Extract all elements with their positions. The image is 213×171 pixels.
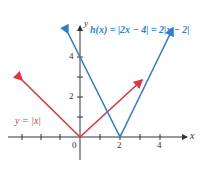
h-label: h(x) = |2x − 4| = 2|x − 2| [90,24,190,35]
tick-x-0: 0 [72,140,77,150]
tick-x-2: 2 [117,140,122,150]
y-axis [77,26,83,160]
y-axis-label: y [84,18,88,28]
tick-y-2: 2 [69,91,74,101]
tick-x-4: 4 [157,140,162,150]
series-h [68,28,173,137]
abs-label: y = |x| [15,115,41,126]
tick-y-4: 4 [69,51,74,61]
x-axis-label: x [190,130,194,141]
